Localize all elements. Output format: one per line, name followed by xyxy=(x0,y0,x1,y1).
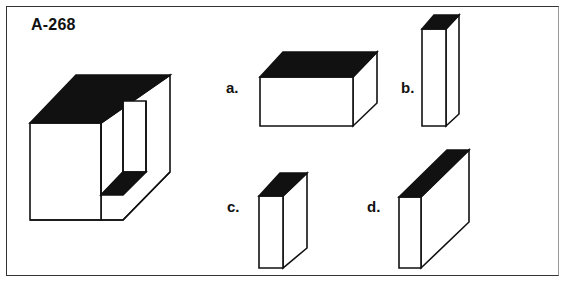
reference-cube xyxy=(30,75,170,220)
option-a-shape[interactable] xyxy=(260,52,377,126)
figures-canvas xyxy=(0,0,561,282)
option-b-shape[interactable] xyxy=(422,15,459,126)
option-d-shape[interactable] xyxy=(399,150,469,268)
option-c-shape[interactable] xyxy=(259,173,307,268)
